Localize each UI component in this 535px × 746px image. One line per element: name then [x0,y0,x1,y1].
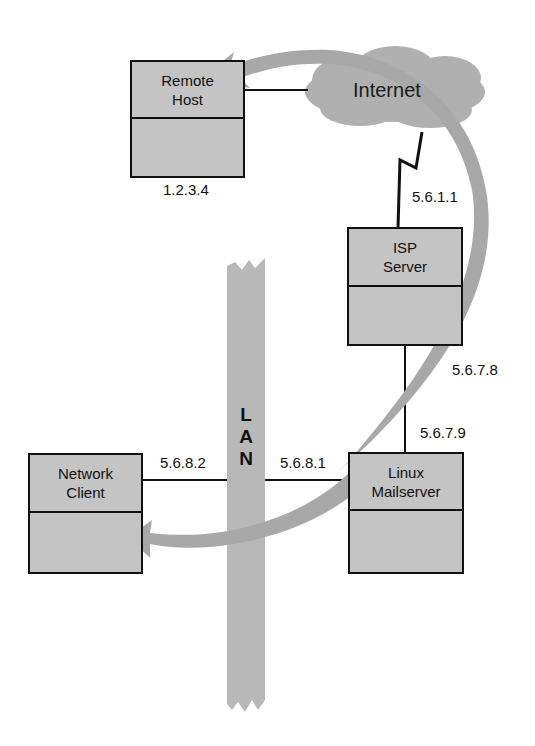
linux-mailserver-label-line1: Linux [388,463,424,482]
remote-host-label-line2: Host [172,90,203,109]
lan-letter-a: A [227,426,265,448]
isp-server-label: ISP Server [349,229,461,287]
isp-downstream-ip: 5.6.7.8 [452,361,498,378]
linux-mailserver-label-line2: Mailserver [371,482,440,501]
isp-server-label-line2: Server [383,257,427,276]
lan-letter-n: N [227,448,265,470]
network-client-ip: 5.6.8.2 [160,454,206,471]
isp-server-label-line1: ISP [393,238,417,257]
network-client-label-line1: Network [58,464,113,483]
lan-bar [227,258,265,712]
remote-host-node: Remote Host [130,60,245,178]
network-client-label: Network Client [30,455,141,513]
network-client-label-line2: Client [66,483,104,502]
remote-host-label: Remote Host [132,62,243,119]
isp-server-node: ISP Server [347,227,463,346]
remote-host-ip: 1.2.3.4 [163,181,209,198]
mailserver-lan-ip: 5.6.8.1 [280,454,326,471]
remote-host-label-line1: Remote [161,71,214,90]
linux-mailserver-node: Linux Mailserver [348,452,464,574]
mailserver-wan-ip: 5.6.7.9 [420,424,466,441]
internet-label: Internet [353,79,421,102]
isp-upstream-ip: 5.6.1.1 [412,188,458,205]
linux-mailserver-label: Linux Mailserver [350,454,462,511]
lan-letter-l: L [227,404,265,426]
network-client-node: Network Client [28,453,143,574]
lightning-link [398,132,422,228]
